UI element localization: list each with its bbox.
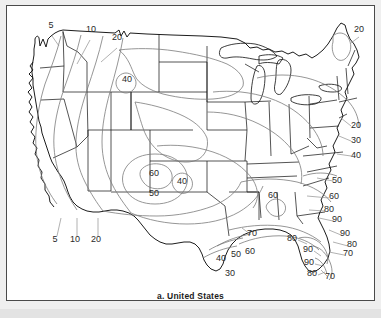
- contour-label: 5: [52, 234, 57, 244]
- contour-label: 50: [149, 188, 159, 198]
- contour-label: 80: [287, 233, 297, 243]
- leader-fl-90b: [314, 251, 321, 256]
- contour-level-30-south-branch: [135, 102, 208, 162]
- contour-level-60-loop-se: [266, 199, 285, 216]
- state-line-ky-tn: [247, 162, 299, 164]
- contour-label: 90: [304, 257, 314, 267]
- state-line-or-id: [40, 66, 64, 68]
- contour-level-20-maine: [332, 33, 351, 60]
- contour-label: 70: [343, 248, 353, 258]
- state-line-ga-fl: [297, 212, 325, 216]
- contour-label: 40: [177, 176, 187, 186]
- contour-label: 60: [149, 168, 159, 178]
- contour-label: 60: [268, 190, 278, 200]
- state-line-wv-va: [307, 138, 327, 148]
- map-figure-frame: 5102040202030405060504051020304050607060…: [6, 5, 375, 301]
- state-line-id-mt: [63, 32, 87, 92]
- state-line-pa-md: [310, 126, 339, 128]
- leader-fl-70a: [329, 252, 344, 255]
- state-line-wy-ut: [88, 92, 111, 130]
- contour-label: 70: [325, 271, 335, 281]
- leader-east-40: [337, 154, 351, 156]
- leader-east-30: [339, 136, 351, 141]
- state-line-tn-ms: [247, 176, 297, 178]
- contour-label: 30: [225, 268, 235, 278]
- state-line-wa-id: [63, 31, 64, 92]
- contour-label: 60: [245, 246, 255, 256]
- contour-level-20-west: [76, 36, 103, 211]
- contour-level-70-gulf: [229, 225, 321, 242]
- contour-label: 50: [332, 175, 342, 185]
- leader-east-20: [341, 118, 351, 126]
- leader-nw-20: [101, 48, 117, 62]
- state-line-ca-nv: [53, 99, 77, 158]
- state-line-az-nm: [88, 130, 111, 191]
- figure-caption: a. United States: [7, 291, 374, 301]
- contour-label: 90: [332, 214, 342, 224]
- contour-label: 80: [307, 268, 317, 278]
- figure-root: 5102040202030405060504051020304050607060…: [0, 0, 381, 318]
- contour-level-10-west: [54, 35, 81, 210]
- leader-se-90: [319, 218, 333, 221]
- contour-label: 80: [324, 204, 334, 214]
- west-coast-detail: [28, 62, 54, 207]
- leader-fl-90c: [315, 264, 323, 266]
- state-line-tx-east: [207, 161, 229, 236]
- contour-label: 60: [329, 191, 339, 201]
- state-line-al-ga: [295, 192, 303, 224]
- contour-label: 20: [91, 234, 101, 244]
- contour-label: 90: [340, 228, 350, 238]
- contour-label: 10: [70, 234, 80, 244]
- leader-sw-5: [57, 218, 61, 236]
- great-lakes-group: [219, 43, 341, 105]
- state-boundaries-group: [40, 31, 357, 236]
- contour-label: 5: [48, 20, 53, 30]
- contour-level-30-west: [102, 38, 131, 213]
- leader-nw-5: [52, 36, 59, 46]
- contour-label: 20: [351, 120, 361, 130]
- contour-label: 20: [354, 24, 364, 34]
- contour-label: 50: [231, 249, 241, 259]
- state-line-wi-il: [245, 101, 271, 102]
- state-line-mi-wi: [245, 64, 259, 72]
- contour-label: 40: [122, 74, 132, 84]
- state-line-nc-sc: [307, 166, 337, 172]
- page-bottom-strip: [0, 309, 381, 318]
- state-line-nh-me: [348, 50, 355, 66]
- leader-fl-80c: [318, 272, 325, 275]
- contour-label: 70: [247, 228, 257, 238]
- contour-label: 20: [112, 32, 122, 42]
- state-line-ny-vt: [337, 76, 339, 100]
- contour-level-5-west: [36, 36, 61, 204]
- contour-label: 40: [216, 253, 226, 263]
- contour-lines-group: [36, 33, 359, 280]
- contour-map-svg: 5102040202030405060504051020304050607060…: [7, 6, 374, 300]
- contour-label: 90: [303, 244, 313, 254]
- state-line-il-in: [269, 102, 271, 156]
- contour-label: 30: [351, 135, 361, 145]
- contour-level-40-east-mid: [207, 112, 302, 184]
- leader-se-80: [309, 210, 325, 211]
- state-line-oh-pa: [309, 96, 310, 138]
- lake-erie-outline: [291, 95, 321, 105]
- leader-fl-80a: [333, 242, 348, 246]
- state-line-ia-il: [245, 102, 247, 161]
- leader-maine-20: [351, 37, 359, 43]
- leader-east-50: [317, 178, 333, 181]
- contour-label: 40: [351, 150, 361, 160]
- contour-label: 10: [86, 24, 96, 34]
- lake-huron-outline: [274, 59, 291, 94]
- state-line-pa-ny: [310, 100, 337, 104]
